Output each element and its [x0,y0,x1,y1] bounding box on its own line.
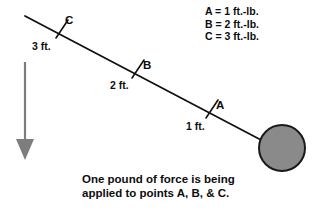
circle-mass-icon [259,125,305,171]
distance-label-c: 3 ft. [32,40,51,52]
caption-line-2: applied to points A, B, & C. [82,186,235,200]
torque-diagram-figure: A = 1 ft.-lb. B = 2 ft.-lb. C = 3 ft.-lb… [0,0,320,211]
down-arrow-icon [16,62,34,160]
point-label-c: C [65,14,73,26]
legend-entry-c: C = 3 ft.-lb. [205,30,259,43]
caption: One pound of force is being applied to p… [82,172,235,200]
distance-label-a: 1 ft. [186,120,205,132]
legend-entry-b: B = 2 ft.-lb. [205,18,259,31]
legend-entry-a: A = 1 ft.-lb. [205,5,259,18]
point-label-a: A [216,99,224,111]
point-label-b: B [143,59,151,71]
caption-line-1: One pound of force is being [82,172,235,186]
legend: A = 1 ft.-lb. B = 2 ft.-lb. C = 3 ft.-lb… [205,5,259,43]
distance-label-b: 2 ft. [110,79,129,91]
